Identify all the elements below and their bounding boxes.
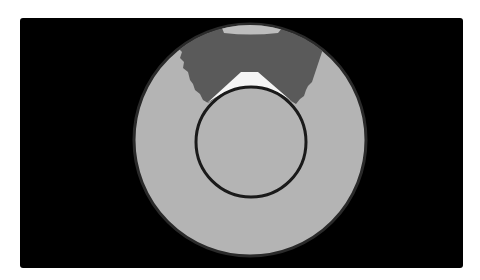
image-frame xyxy=(20,18,463,268)
scan-image xyxy=(20,18,463,268)
